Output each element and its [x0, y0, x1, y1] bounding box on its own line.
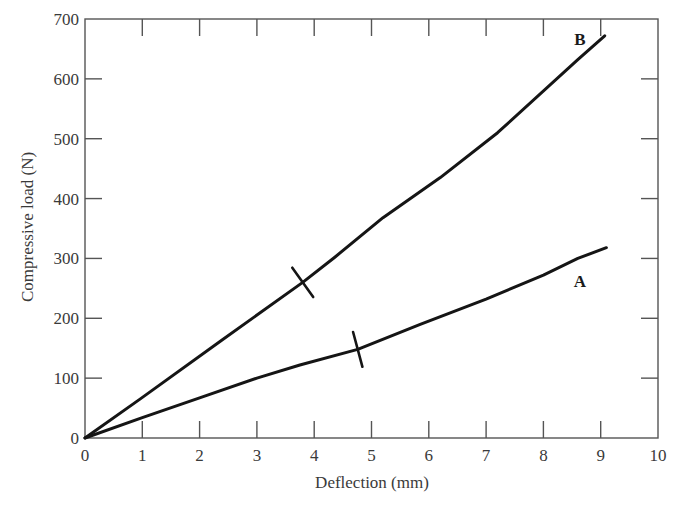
series-b-marker [292, 268, 313, 297]
series-a-line [85, 248, 606, 438]
x-tick-labels: 012345678910 [81, 446, 667, 465]
y-axis-title: Compressive load (N) [18, 152, 37, 302]
load-deflection-chart: 012345678910 0100200300400500600700 Defl… [0, 0, 685, 506]
series-b-line [85, 36, 605, 438]
y-tick-label: 500 [54, 130, 80, 149]
x-tick-label: 10 [650, 446, 667, 465]
y-tick-label: 300 [54, 249, 80, 268]
x-tick-label: 6 [425, 446, 434, 465]
y-tick-label: 100 [54, 369, 80, 388]
y-tick-label: 200 [54, 309, 80, 328]
x-tick-label: 2 [195, 446, 204, 465]
y-tick-label: 0 [71, 429, 80, 448]
x-axis-title: Deflection (mm) [315, 473, 429, 492]
y-tick-label: 400 [54, 190, 80, 209]
x-tick-label: 4 [310, 446, 319, 465]
x-tick-label: 7 [482, 446, 491, 465]
series-lines [85, 36, 606, 438]
y-tick-label: 700 [54, 10, 80, 29]
x-tick-label: 8 [539, 446, 548, 465]
x-tick-label: 0 [81, 446, 90, 465]
x-tick-label: 9 [596, 446, 605, 465]
series-a-label: A [574, 272, 587, 291]
y-tick-label: 600 [54, 70, 80, 89]
series-b-label: B [574, 30, 585, 49]
y-tick-labels: 0100200300400500600700 [54, 10, 80, 448]
x-tick-label: 5 [367, 446, 376, 465]
x-tick-label: 1 [138, 446, 147, 465]
x-tick-label: 3 [253, 446, 262, 465]
